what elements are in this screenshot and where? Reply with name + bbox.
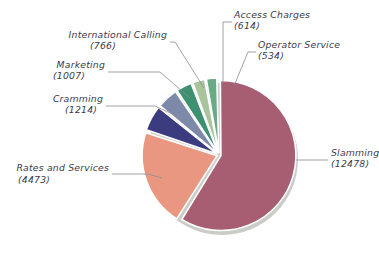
label-cramming-name: Cramming [53,93,103,104]
label-international-calling-name: International Calling [69,29,167,40]
label-operator-service-name: Operator Service [258,39,340,50]
leader-line-access-charges [223,22,232,84]
label-access-charges-name: Access Charges [233,9,310,20]
label-cramming-value: (1214) [65,104,97,115]
label-rates-and-services-name: Rates and Services [16,162,109,173]
label-slamming-name: Slamming [331,147,379,158]
leader-line-operator-service [234,52,256,86]
label-rates-and-services-value: (4473) [18,174,50,185]
label-international-calling-value: (766) [90,40,116,51]
label-marketing-name: Marketing [57,59,105,70]
label-operator-service-value: (534) [258,50,284,61]
label-slamming-value: (12478) [331,158,369,169]
pie-chart-canvas: Slamming (12478)Rates and Services (4473… [0,0,379,258]
label-access-charges-value: (614) [234,20,260,31]
label-marketing-value: (1007) [53,70,85,81]
pie-chart-figure: Slamming (12478)Rates and Services (4473… [0,0,379,258]
